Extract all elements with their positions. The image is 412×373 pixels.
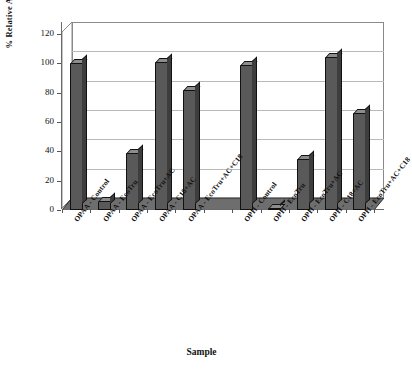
- x-label-10: OPH - EcoTru+AC+C18: [356, 155, 412, 223]
- x-label-4: OPAA - EcoTru+AC+C18: [186, 152, 245, 223]
- x-axis-title: Sample: [0, 347, 403, 357]
